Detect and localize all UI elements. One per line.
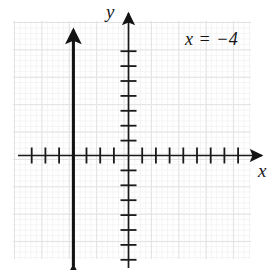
graph-figure: y x x = −4 <box>0 0 279 270</box>
equation-annotation: x = −4 <box>185 29 238 50</box>
y-axis-label: y <box>106 2 114 21</box>
x-axis-label: x <box>258 161 266 180</box>
